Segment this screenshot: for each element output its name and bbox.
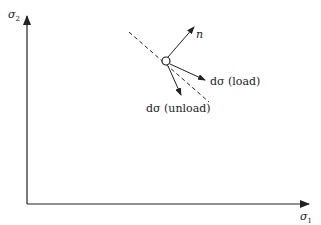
yield-surface-tangent-dashed-line	[129, 32, 209, 102]
x-axis-subscript: 1	[308, 217, 312, 225]
x-axis-symbol: σ	[300, 210, 308, 223]
load-increment-label: dσ (load)	[210, 76, 260, 87]
stress-space-diagram: σ2 σ1 n dσ (load) dσ (unload)	[0, 0, 321, 225]
normal-vector-label: n	[196, 29, 203, 40]
normal-vector-arrow	[168, 27, 194, 57]
y-axis-subscript: 2	[16, 15, 20, 23]
unload-increment-label: dσ (unload)	[146, 103, 211, 114]
y-axis-symbol: σ	[8, 8, 16, 21]
y-axis-label: σ2	[8, 9, 20, 23]
stress-point-circle	[162, 57, 170, 65]
x-axis-label: σ1	[300, 211, 312, 225]
load-increment-arrow	[170, 64, 205, 80]
unload-increment-arrow	[168, 66, 181, 95]
